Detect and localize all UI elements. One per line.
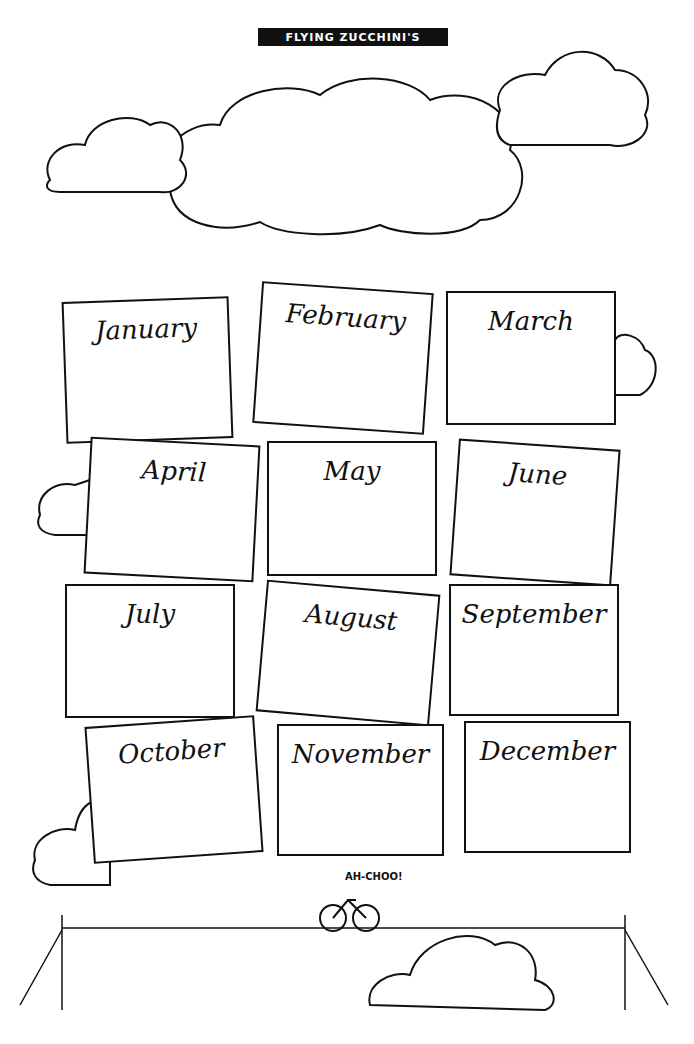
month-label: March — [487, 306, 574, 336]
month-label: September — [462, 599, 608, 629]
calendar-illustration: FLYING ZUCCHINI'S AH-CHOO! JanuaryFebrua… — [0, 0, 694, 1044]
month-card-july: July — [66, 585, 234, 717]
month-label: June — [502, 457, 568, 491]
month-label: December — [479, 736, 617, 766]
month-card-march: March — [447, 292, 615, 424]
banner-text: FLYING ZUCCHINI'S — [286, 31, 421, 44]
tightrope — [20, 915, 668, 1010]
month-card-february: February — [253, 282, 432, 434]
month-card-may: May — [268, 442, 436, 575]
month-card-november: November — [278, 725, 443, 855]
month-card-august: August — [257, 581, 440, 725]
month-card-december: December — [465, 722, 630, 852]
month-card-october: October — [85, 716, 262, 862]
bicycle — [320, 900, 379, 931]
month-label: January — [90, 312, 198, 346]
month-label: April — [139, 454, 207, 487]
month-label: November — [291, 739, 431, 769]
month-card-april: April — [85, 438, 260, 582]
sneeze-text: AH-CHOO! — [345, 871, 403, 882]
month-card-september: September — [450, 585, 618, 715]
month-card-january: January — [63, 297, 233, 443]
month-card-june: June — [450, 440, 619, 586]
artwork: FLYING ZUCCHINI'S AH-CHOO! JanuaryFebrua… — [0, 0, 694, 1044]
month-label: May — [323, 456, 381, 486]
month-label: July — [120, 599, 175, 629]
